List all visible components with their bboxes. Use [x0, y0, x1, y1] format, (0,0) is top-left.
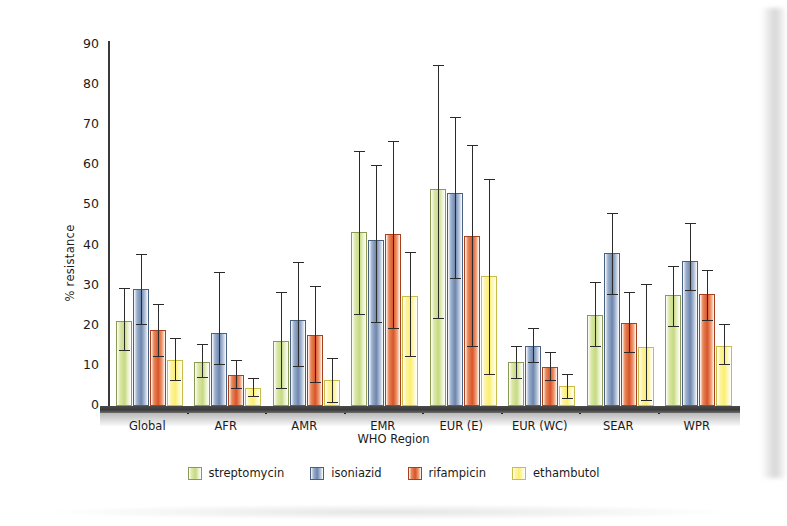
error-bar-cap-upper — [327, 358, 338, 359]
error-bar-cap-lower — [231, 388, 242, 389]
error-bar-line — [202, 344, 203, 377]
error-bar-cap-upper — [293, 262, 304, 263]
error-bar-cap-lower — [545, 380, 556, 381]
error-bar-cap-upper — [371, 165, 382, 166]
error-bar-cap-lower — [685, 290, 696, 291]
error-bar-cap-upper — [119, 288, 130, 289]
error-bar-line — [236, 360, 237, 388]
error-bar-cap-lower — [327, 402, 338, 403]
error-bar-line — [158, 304, 159, 356]
error-bar-cap-upper — [641, 284, 652, 285]
error-bar-cap-upper — [607, 213, 618, 214]
error-bar-line — [690, 223, 691, 289]
error-bar-line — [612, 213, 613, 293]
bar-group — [344, 45, 423, 406]
legend-label: isoniazid — [331, 466, 381, 480]
chart-legend: streptomycinisoniazidrifampicinethambuto… — [0, 466, 787, 480]
y-tick-label: 0 — [91, 397, 99, 412]
error-bar-cap-lower — [528, 362, 539, 363]
error-bar-cap-lower — [293, 366, 304, 367]
y-tick-label: 90 — [83, 36, 99, 51]
error-bar-cap-lower — [607, 294, 618, 295]
error-bar-line — [281, 292, 282, 388]
legend-swatch-ethambutol — [512, 467, 526, 480]
error-bar-line — [724, 324, 725, 364]
error-bar-cap-upper — [248, 378, 259, 379]
error-bar-cap-upper — [467, 145, 478, 146]
error-bar-cap-upper — [433, 65, 444, 66]
error-bar-cap-lower — [562, 398, 573, 399]
legend-item-ethambutol[interactable]: ethambutol — [512, 466, 599, 480]
legend-swatch-rifampicin — [408, 467, 422, 480]
error-bar-line — [550, 352, 551, 380]
error-bar-cap-lower — [388, 328, 399, 329]
chart-figure: % resistance 0102030405060708090 GlobalA… — [0, 0, 787, 526]
error-bar-line — [533, 328, 534, 362]
x-axis-title: WHO Region — [0, 432, 787, 446]
error-bar-cap-lower — [310, 382, 321, 383]
error-bar-cap-upper — [450, 117, 461, 118]
error-bar-line — [359, 151, 360, 313]
error-bar-line — [332, 358, 333, 402]
legend-label: rifampicin — [429, 466, 487, 480]
error-bar-cap-lower — [248, 396, 259, 397]
x-axis-line — [100, 406, 740, 413]
y-tick-label: 10 — [83, 357, 99, 372]
legend-swatch-isoniazid — [310, 467, 324, 480]
error-bar-line — [298, 262, 299, 366]
error-bar-line — [595, 282, 596, 346]
error-bar-cap-lower — [371, 322, 382, 323]
bar-group — [108, 45, 187, 406]
error-bar-cap-upper — [276, 292, 287, 293]
error-bar-cap-upper — [388, 141, 399, 142]
y-tick-label: 80 — [83, 76, 99, 91]
bar-groups: GlobalAFRAMREMREUR (E)EUR (WC)SEARWPR — [108, 45, 736, 406]
x-axis-shadow — [100, 413, 740, 426]
error-bar-line — [124, 288, 125, 350]
error-bar-line — [567, 374, 568, 398]
error-bar-cap-upper — [354, 151, 365, 152]
error-bar-cap-lower — [511, 378, 522, 379]
error-bar-line — [175, 338, 176, 380]
error-bar-line — [629, 292, 630, 352]
error-bar-cap-upper — [197, 344, 208, 345]
error-bar-line — [253, 378, 254, 396]
legend-item-streptomycin[interactable]: streptomycin — [188, 466, 285, 480]
y-tick-label: 40 — [83, 237, 99, 252]
y-tick-label: 60 — [83, 156, 99, 171]
error-bar-cap-upper — [511, 346, 522, 347]
error-bar-cap-upper — [310, 286, 321, 287]
error-bar-cap-lower — [276, 388, 287, 389]
error-bar-line — [219, 272, 220, 364]
y-tick-label: 20 — [83, 317, 99, 332]
bar-group — [422, 45, 501, 406]
error-bar-cap-lower — [467, 346, 478, 347]
error-bar-cap-lower — [433, 318, 444, 319]
error-bar-line — [472, 145, 473, 346]
error-bar-cap-upper — [668, 266, 679, 267]
bar-group — [501, 45, 580, 406]
y-tick-label: 50 — [83, 196, 99, 211]
error-bar-cap-upper — [562, 374, 573, 375]
y-axis-title: % resistance — [63, 224, 77, 301]
error-bar-cap-lower — [590, 346, 601, 347]
bar-group — [579, 45, 658, 406]
bar-group — [658, 45, 737, 406]
legend-item-isoniazid[interactable]: isoniazid — [310, 466, 381, 480]
error-bar-cap-lower — [214, 364, 225, 365]
legend-label: ethambutol — [533, 466, 599, 480]
bar-group — [265, 45, 344, 406]
legend-item-rifampicin[interactable]: rifampicin — [408, 466, 487, 480]
error-bar-cap-lower — [641, 400, 652, 401]
error-bar-cap-lower — [119, 350, 130, 351]
error-bar-line — [315, 286, 316, 382]
error-bar-cap-lower — [702, 320, 713, 321]
error-bar-cap-upper — [590, 282, 601, 283]
bar-group — [187, 45, 266, 406]
error-bar-line — [393, 141, 394, 328]
error-bar-cap-upper — [153, 304, 164, 305]
error-bar-cap-upper — [484, 179, 495, 180]
error-bar-line — [516, 346, 517, 378]
error-bar-cap-upper — [719, 324, 730, 325]
error-bar-cap-upper — [702, 270, 713, 271]
